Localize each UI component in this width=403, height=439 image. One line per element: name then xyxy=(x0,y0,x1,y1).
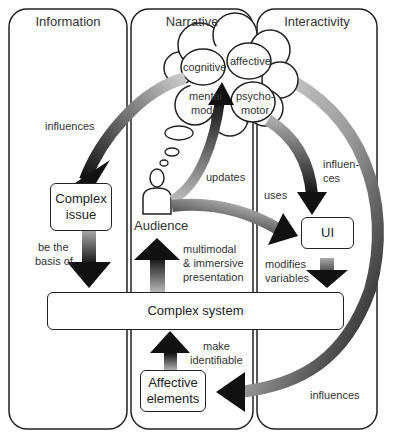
edge-modifies-1: modifies xyxy=(265,258,306,271)
cloud-mental-1: mental xyxy=(189,90,222,103)
complex-system-label: Complex system xyxy=(147,303,243,319)
column-title-narrative: Narrative xyxy=(131,14,253,29)
edge-make-1: make xyxy=(203,340,230,353)
edge-basis-2: basis of xyxy=(35,255,73,268)
column-title-interactivity: Interactivity xyxy=(257,14,377,29)
edge-influences-ui-1: influen- xyxy=(323,158,359,171)
cloud-cognitive: cognitive xyxy=(183,61,226,74)
edge-uses: uses xyxy=(264,189,287,202)
cloud-psychomotor-1: psycho- xyxy=(236,90,275,103)
node-complex-system: Complex system xyxy=(47,292,344,330)
affective-elements-line-1: Affective xyxy=(148,375,198,391)
edge-influences-right: influences xyxy=(310,389,360,402)
node-complex-issue: Complex issue xyxy=(50,183,112,231)
cloud-psychomotor-2: motor xyxy=(241,104,269,117)
node-ui: UI xyxy=(301,217,354,249)
complex-issue-line-2: issue xyxy=(66,207,96,223)
edge-multimodal-3: presentation xyxy=(183,271,244,284)
edge-basis-1: be the xyxy=(38,241,69,254)
edge-influences-left: influences xyxy=(45,120,95,133)
edge-influences-ui-2: ces xyxy=(323,172,340,185)
edge-multimodal-1: multimodal xyxy=(183,243,236,256)
edge-make-2: identifiable xyxy=(190,354,243,367)
column-title-information: Information xyxy=(9,14,127,29)
cloud-mental-2: model xyxy=(191,104,221,117)
cloud-affective: affective xyxy=(230,55,271,68)
affective-elements-line-2: elements xyxy=(147,391,200,407)
edge-modifies-2: variables xyxy=(265,272,309,285)
edge-updates: updates xyxy=(206,171,245,184)
node-affective-elements: Affective elements xyxy=(140,370,206,412)
complex-issue-line-1: Complex xyxy=(55,191,106,207)
node-audience: Audience xyxy=(134,219,188,232)
ui-label: UI xyxy=(321,225,334,241)
edge-multimodal-2: & immersive xyxy=(183,257,244,270)
